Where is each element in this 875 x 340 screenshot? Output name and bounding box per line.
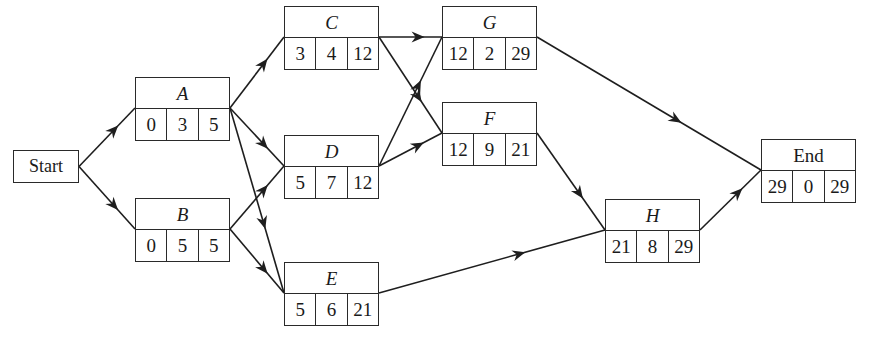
activity-times: 12 9 21 <box>443 134 536 165</box>
earliest-start: 0 <box>136 230 167 261</box>
duration: 3 <box>167 109 198 140</box>
edge-layer <box>0 0 875 340</box>
earliest-start: 12 <box>443 38 474 69</box>
start-node: Start <box>13 150 79 183</box>
edge-e-h <box>379 230 605 293</box>
activity-name: G <box>443 7 536 38</box>
edge-c-f <box>379 37 442 133</box>
latest-finish: 21 <box>348 294 378 325</box>
activity-node-c: C 3 4 12 <box>284 6 379 70</box>
activity-times: 12 2 29 <box>443 38 536 69</box>
activity-node-e: E 5 6 21 <box>284 262 379 326</box>
latest-finish: 29 <box>825 171 855 202</box>
latest-finish: 29 <box>669 231 699 262</box>
activity-times: 3 4 12 <box>285 38 378 69</box>
activity-node-a: A 0 3 5 <box>135 77 230 141</box>
latest-finish: 12 <box>348 167 378 198</box>
activity-name: D <box>285 136 378 167</box>
activity-name: End <box>762 140 855 171</box>
duration: 7 <box>316 167 347 198</box>
activity-times: 29 0 29 <box>762 171 855 202</box>
earliest-start: 5 <box>285 294 316 325</box>
edge-start-a <box>79 108 135 167</box>
activity-times: 21 8 29 <box>606 231 699 262</box>
latest-finish: 21 <box>506 134 536 165</box>
edge-f-h <box>537 133 605 230</box>
earliest-start: 3 <box>285 38 316 69</box>
arrowhead-icon <box>667 111 681 122</box>
duration: 8 <box>637 231 668 262</box>
earliest-start: 0 <box>136 109 167 140</box>
edge-d-g <box>379 37 442 166</box>
arrowhead-icon <box>571 185 583 199</box>
activity-name: B <box>136 199 229 230</box>
earliest-start: 12 <box>443 134 474 165</box>
latest-finish: 12 <box>348 38 378 69</box>
earliest-start: 5 <box>285 167 316 198</box>
activity-node-f: F 12 9 21 <box>442 102 537 166</box>
activity-node-h: H 21 8 29 <box>605 199 700 263</box>
activity-node-d: D 5 7 12 <box>284 135 379 199</box>
duration: 4 <box>316 38 347 69</box>
edge-g-end <box>537 37 761 170</box>
duration: 5 <box>167 230 198 261</box>
edge-start-b <box>79 167 135 230</box>
start-label: Start <box>29 156 63 176</box>
edge-b-e <box>230 229 284 293</box>
latest-finish: 29 <box>506 38 536 69</box>
activity-times: 0 3 5 <box>136 109 229 140</box>
arrowhead-icon <box>255 59 267 73</box>
latest-finish: 5 <box>199 230 229 261</box>
earliest-start: 29 <box>762 171 793 202</box>
duration: 6 <box>316 294 347 325</box>
edge-b-d <box>230 166 284 229</box>
activity-node-b: B 0 5 5 <box>135 198 230 262</box>
activity-times: 5 7 12 <box>285 167 378 198</box>
activity-name: H <box>606 200 699 231</box>
edge-a-e <box>230 108 284 293</box>
activity-name: E <box>285 263 378 294</box>
latest-finish: 5 <box>199 109 229 140</box>
activity-node-end: End 29 0 29 <box>761 139 856 203</box>
earliest-start: 21 <box>606 231 637 262</box>
duration: 9 <box>474 134 505 165</box>
activity-name: A <box>136 78 229 109</box>
activity-times: 0 5 5 <box>136 230 229 261</box>
activity-name: F <box>443 103 536 134</box>
edge-d-f <box>379 133 442 166</box>
activity-node-g: G 12 2 29 <box>442 6 537 70</box>
activity-times: 5 6 21 <box>285 294 378 325</box>
duration: 0 <box>793 171 824 202</box>
activity-name: C <box>285 7 378 38</box>
edge-h-end <box>700 170 761 230</box>
duration: 2 <box>474 38 505 69</box>
edge-a-c <box>230 37 284 108</box>
